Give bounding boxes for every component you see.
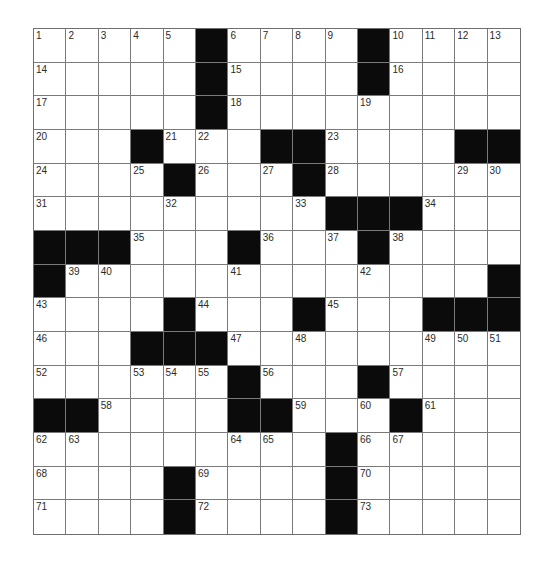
crossword-cell[interactable] [358, 332, 390, 366]
crossword-cell[interactable] [228, 467, 260, 501]
crossword-cell[interactable] [66, 366, 98, 400]
crossword-cell[interactable]: 5 [164, 29, 196, 63]
crossword-cell[interactable] [99, 197, 131, 231]
crossword-cell[interactable]: 41 [228, 265, 260, 299]
crossword-cell[interactable] [164, 63, 196, 97]
crossword-cell[interactable]: 27 [261, 164, 293, 198]
crossword-cell[interactable] [326, 63, 358, 97]
crossword-cell[interactable]: 38 [390, 231, 422, 265]
crossword-cell[interactable]: 10 [390, 29, 422, 63]
crossword-cell[interactable]: 42 [358, 265, 390, 299]
crossword-cell[interactable]: 45 [326, 298, 358, 332]
crossword-cell[interactable] [423, 164, 455, 198]
crossword-cell[interactable]: 16 [390, 63, 422, 97]
crossword-cell[interactable] [293, 231, 325, 265]
crossword-cell[interactable]: 28 [326, 164, 358, 198]
crossword-cell[interactable] [99, 500, 131, 534]
crossword-cell[interactable] [455, 231, 487, 265]
crossword-cell[interactable] [66, 332, 98, 366]
crossword-cell[interactable] [488, 96, 520, 130]
crossword-cell[interactable] [66, 96, 98, 130]
crossword-cell[interactable] [261, 63, 293, 97]
crossword-cell[interactable]: 35 [131, 231, 163, 265]
crossword-cell[interactable]: 6 [228, 29, 260, 63]
crossword-cell[interactable]: 48 [293, 332, 325, 366]
crossword-cell[interactable] [423, 96, 455, 130]
crossword-cell[interactable] [228, 500, 260, 534]
crossword-cell[interactable]: 68 [34, 467, 66, 501]
crossword-cell[interactable] [326, 265, 358, 299]
crossword-cell[interactable]: 34 [423, 197, 455, 231]
crossword-cell[interactable] [358, 130, 390, 164]
crossword-cell[interactable]: 33 [293, 197, 325, 231]
crossword-cell[interactable] [293, 96, 325, 130]
crossword-cell[interactable]: 9 [326, 29, 358, 63]
crossword-cell[interactable] [164, 433, 196, 467]
crossword-cell[interactable] [131, 467, 163, 501]
crossword-cell[interactable] [326, 399, 358, 433]
crossword-cell[interactable]: 17 [34, 96, 66, 130]
crossword-cell[interactable]: 8 [293, 29, 325, 63]
crossword-cell[interactable] [99, 332, 131, 366]
crossword-cell[interactable]: 14 [34, 63, 66, 97]
crossword-cell[interactable]: 7 [261, 29, 293, 63]
crossword-cell[interactable] [488, 63, 520, 97]
crossword-cell[interactable] [66, 63, 98, 97]
crossword-cell[interactable] [261, 265, 293, 299]
crossword-cell[interactable]: 1 [34, 29, 66, 63]
crossword-cell[interactable]: 61 [423, 399, 455, 433]
crossword-cell[interactable] [423, 63, 455, 97]
crossword-cell[interactable] [423, 231, 455, 265]
crossword-cell[interactable] [196, 265, 228, 299]
crossword-cell[interactable] [228, 298, 260, 332]
crossword-cell[interactable]: 24 [34, 164, 66, 198]
crossword-cell[interactable] [293, 265, 325, 299]
crossword-cell[interactable]: 72 [196, 500, 228, 534]
crossword-cell[interactable]: 11 [423, 29, 455, 63]
crossword-cell[interactable] [66, 130, 98, 164]
crossword-cell[interactable] [66, 164, 98, 198]
crossword-cell[interactable] [131, 197, 163, 231]
crossword-cell[interactable]: 39 [66, 265, 98, 299]
crossword-cell[interactable] [488, 500, 520, 534]
crossword-cell[interactable]: 30 [488, 164, 520, 198]
crossword-cell[interactable]: 54 [164, 366, 196, 400]
crossword-cell[interactable] [261, 332, 293, 366]
crossword-cell[interactable] [131, 433, 163, 467]
crossword-cell[interactable] [99, 96, 131, 130]
crossword-cell[interactable] [390, 298, 422, 332]
crossword-cell[interactable] [488, 399, 520, 433]
crossword-cell[interactable] [455, 500, 487, 534]
crossword-cell[interactable] [293, 500, 325, 534]
crossword-cell[interactable] [196, 433, 228, 467]
crossword-cell[interactable] [423, 500, 455, 534]
crossword-cell[interactable] [99, 298, 131, 332]
crossword-cell[interactable]: 23 [326, 130, 358, 164]
crossword-cell[interactable] [326, 332, 358, 366]
crossword-cell[interactable] [293, 467, 325, 501]
crossword-cell[interactable]: 36 [261, 231, 293, 265]
crossword-cell[interactable]: 2 [66, 29, 98, 63]
crossword-cell[interactable] [358, 298, 390, 332]
crossword-cell[interactable] [131, 265, 163, 299]
crossword-cell[interactable] [196, 197, 228, 231]
crossword-cell[interactable] [228, 197, 260, 231]
crossword-cell[interactable] [131, 96, 163, 130]
crossword-cell[interactable]: 70 [358, 467, 390, 501]
crossword-cell[interactable] [488, 197, 520, 231]
crossword-cell[interactable]: 62 [34, 433, 66, 467]
crossword-cell[interactable] [99, 433, 131, 467]
crossword-cell[interactable] [423, 130, 455, 164]
crossword-cell[interactable]: 21 [164, 130, 196, 164]
crossword-cell[interactable]: 15 [228, 63, 260, 97]
crossword-cell[interactable]: 73 [358, 500, 390, 534]
crossword-cell[interactable]: 60 [358, 399, 390, 433]
crossword-cell[interactable]: 53 [131, 366, 163, 400]
crossword-cell[interactable]: 32 [164, 197, 196, 231]
crossword-cell[interactable] [455, 399, 487, 433]
crossword-cell[interactable]: 4 [131, 29, 163, 63]
crossword-cell[interactable] [99, 467, 131, 501]
crossword-cell[interactable] [196, 399, 228, 433]
crossword-cell[interactable] [390, 265, 422, 299]
crossword-cell[interactable]: 40 [99, 265, 131, 299]
